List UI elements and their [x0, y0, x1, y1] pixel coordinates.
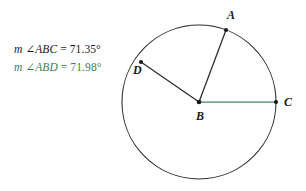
point-label-c: C — [284, 96, 292, 108]
angle-measure-list: m ∠ABC = 71.35° m ∠ABD = 71.98° — [14, 40, 132, 76]
point-b-dot — [197, 100, 202, 105]
point-label-b: B — [196, 110, 204, 122]
segment-ba — [199, 30, 226, 102]
measure-abc-equals: = — [60, 43, 67, 55]
point-a-dot — [224, 28, 228, 32]
measure-abc-name: ABC — [35, 43, 57, 55]
measure-abd-name: ABD — [35, 61, 58, 73]
measure-abc-value: 71.35° — [70, 43, 101, 55]
angle-measure-abc: m ∠ABC = 71.35° — [14, 40, 132, 58]
measure-abd-equals: = — [61, 61, 68, 73]
measure-abc-prefix: m — [14, 43, 22, 55]
measure-abd-angle-icon: ∠ — [25, 61, 35, 73]
measure-abc-angle-icon: ∠ — [25, 43, 35, 55]
point-label-d: D — [133, 64, 142, 76]
measure-abd-value: 71.98° — [70, 61, 101, 73]
angle-measure-abd: m ∠ABD = 71.98° — [14, 58, 132, 76]
point-c-dot — [274, 100, 278, 104]
measure-abd-prefix: m — [14, 61, 22, 73]
circle-geometry-figure — [0, 0, 306, 191]
point-label-a: A — [227, 9, 235, 21]
segment-bd — [141, 62, 199, 102]
